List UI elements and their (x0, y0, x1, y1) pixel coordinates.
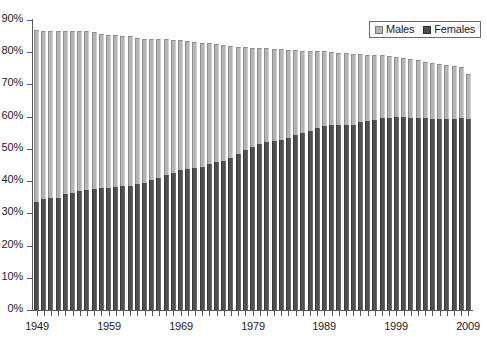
bar-segment-males (264, 48, 269, 142)
bar-column[interactable] (185, 20, 190, 310)
bar-segment-males (459, 67, 464, 118)
bar-column[interactable] (444, 20, 449, 310)
bar-column[interactable] (156, 20, 161, 310)
bar-column[interactable] (236, 20, 241, 310)
bar-column[interactable] (286, 20, 291, 310)
x-axis-tick-mark (440, 311, 441, 316)
bar-column[interactable] (308, 20, 313, 310)
y-axis-tick-label: 80% (2, 44, 23, 56)
bar-segment-males (120, 36, 125, 186)
bar-column[interactable] (387, 20, 392, 310)
bar-segment-females (92, 189, 97, 310)
bar-column[interactable] (437, 20, 442, 310)
bar-column[interactable] (315, 20, 320, 310)
bar-segment-males (34, 30, 39, 202)
bar-segment-females (120, 186, 125, 310)
bar-column[interactable] (351, 20, 356, 310)
bar-segment-males (452, 66, 457, 119)
bar-column[interactable] (228, 20, 233, 310)
bar-segment-males (387, 56, 392, 118)
x-axis-tick-mark (339, 311, 340, 316)
bar-column[interactable] (34, 20, 39, 310)
bar-column[interactable] (200, 20, 205, 310)
bar-column[interactable] (329, 20, 334, 310)
bar-segment-males (63, 31, 68, 194)
bar-column[interactable] (221, 20, 226, 310)
bar-column[interactable] (293, 20, 298, 310)
bar-column[interactable] (416, 20, 421, 310)
bar-segment-females (207, 164, 212, 310)
bar-column[interactable] (48, 20, 53, 310)
bar-column[interactable] (77, 20, 82, 310)
bar-column[interactable] (401, 20, 406, 310)
bar-segment-males (344, 53, 349, 125)
bar-column[interactable] (99, 20, 104, 310)
bar-column[interactable] (164, 20, 169, 310)
bar-segment-males (99, 34, 104, 189)
bar-segment-males (466, 74, 471, 119)
bar-segment-females (466, 119, 471, 310)
x-axis-tick-mark (94, 311, 95, 316)
bar-column[interactable] (372, 20, 377, 310)
x-axis-tick-mark (411, 311, 412, 316)
bar-column[interactable] (243, 20, 248, 310)
legend-label-females: Females (434, 24, 475, 35)
bar-column[interactable] (430, 20, 435, 310)
x-axis-tick-label: 1949 (25, 320, 49, 332)
bar-column[interactable] (466, 20, 471, 310)
bar-column[interactable] (171, 20, 176, 310)
bar-column[interactable] (63, 20, 68, 310)
legend-entry-females[interactable]: Females (423, 24, 475, 35)
x-axis-tick-mark (87, 311, 88, 316)
bar-column[interactable] (423, 20, 428, 310)
x-axis-tick-mark (173, 311, 174, 316)
y-axis-tick-label: 10% (2, 270, 23, 282)
bar-column[interactable] (380, 20, 385, 310)
x-axis-tick-mark (51, 311, 52, 316)
bar-column[interactable] (128, 20, 133, 310)
bar-column[interactable] (214, 20, 219, 310)
bar-column[interactable] (135, 20, 140, 310)
bar-segment-males (200, 43, 205, 167)
bar-segment-females (200, 167, 205, 310)
bar-column[interactable] (106, 20, 111, 310)
bar-column[interactable] (365, 20, 370, 310)
bar-column[interactable] (120, 20, 125, 310)
bar-column[interactable] (408, 20, 413, 310)
bar-segment-males (243, 47, 248, 150)
bar-column[interactable] (113, 20, 118, 310)
bar-column[interactable] (56, 20, 61, 310)
bar-column[interactable] (142, 20, 147, 310)
bar-column[interactable] (178, 20, 183, 310)
bar-column[interactable] (250, 20, 255, 310)
bar-segment-males (149, 39, 154, 180)
bar-column[interactable] (336, 20, 341, 310)
bar-column[interactable] (300, 20, 305, 310)
y-axis-tick-label: 20% (2, 238, 23, 250)
bar-column[interactable] (272, 20, 277, 310)
bar-column[interactable] (41, 20, 46, 310)
bar-column[interactable] (84, 20, 89, 310)
bar-column[interactable] (207, 20, 212, 310)
x-axis-tick-mark (245, 311, 246, 316)
bar-column[interactable] (70, 20, 75, 310)
bar-segment-females (63, 194, 68, 310)
bar-segment-females (437, 119, 442, 310)
legend-entry-males[interactable]: Males (375, 24, 414, 35)
bar-column[interactable] (92, 20, 97, 310)
x-axis-tick-mark (202, 311, 203, 316)
bar-column[interactable] (358, 20, 363, 310)
bar-column[interactable] (344, 20, 349, 310)
bar-column[interactable] (149, 20, 154, 310)
bar-segment-females (293, 135, 298, 310)
bar-column[interactable] (394, 20, 399, 310)
bar-segment-males (221, 45, 226, 160)
bar-column[interactable] (264, 20, 269, 310)
bar-column[interactable] (452, 20, 457, 310)
bar-column[interactable] (459, 20, 464, 310)
bar-column[interactable] (279, 20, 284, 310)
bar-column[interactable] (257, 20, 262, 310)
x-axis-tick-mark (116, 311, 117, 316)
bar-column[interactable] (192, 20, 197, 310)
bar-column[interactable] (322, 20, 327, 310)
